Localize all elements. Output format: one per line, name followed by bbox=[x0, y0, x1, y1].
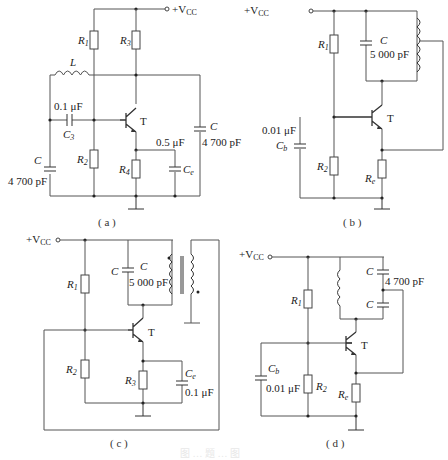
capacitor-c bbox=[360, 41, 372, 45]
label-l: L bbox=[69, 56, 76, 68]
junction-dot bbox=[173, 194, 176, 197]
value-c: 5 000 pF bbox=[370, 48, 409, 60]
polarity-dot bbox=[197, 291, 200, 294]
resistor-r2 bbox=[330, 157, 338, 175]
capacitor-ce bbox=[169, 167, 181, 171]
value-ce: 0.1 μF bbox=[185, 386, 214, 398]
resistor-r1 bbox=[90, 31, 98, 49]
resistor-re bbox=[352, 384, 360, 402]
panel-label-d: ( d ) bbox=[326, 437, 345, 450]
label-r3: R3 bbox=[124, 374, 136, 388]
label-cb: Cb bbox=[276, 139, 287, 153]
label-r2: R2 bbox=[315, 380, 327, 394]
junction-dot bbox=[48, 118, 51, 121]
label-r1: R1 bbox=[290, 294, 302, 308]
junction-dot bbox=[92, 194, 95, 197]
label-transistor: T bbox=[140, 115, 147, 127]
junction-dot bbox=[306, 414, 309, 417]
resistor-r2 bbox=[90, 150, 98, 168]
ground-icon bbox=[128, 196, 144, 209]
inductor bbox=[338, 270, 341, 306]
label-c-a: C bbox=[111, 265, 119, 277]
panel-label-b: ( b ) bbox=[343, 216, 362, 229]
label-r3: R3 bbox=[119, 34, 131, 48]
label-c-b: C bbox=[140, 260, 148, 272]
label-transistor: T bbox=[361, 339, 368, 351]
value-c-left: 4 700 pF bbox=[8, 175, 47, 187]
label-transistor: T bbox=[148, 326, 155, 338]
label-c3: C3 bbox=[63, 128, 74, 142]
label-c-right: C bbox=[210, 120, 218, 132]
supply-terminal-icon bbox=[309, 9, 313, 13]
junction-dot bbox=[381, 288, 384, 291]
transistor-npn bbox=[128, 318, 143, 342]
capacitor-c3 bbox=[67, 114, 72, 126]
supply-terminal-icon bbox=[268, 255, 272, 259]
label-r1: R1 bbox=[66, 278, 78, 292]
label-re: Re bbox=[337, 388, 349, 402]
transformer-core-icon bbox=[181, 256, 183, 294]
label-c-left: C bbox=[34, 154, 42, 166]
label-r2: R2 bbox=[316, 160, 328, 174]
junction-dot bbox=[354, 371, 357, 374]
resistor-r3 bbox=[132, 31, 140, 49]
wire bbox=[366, 11, 417, 81]
label-re: Re bbox=[364, 172, 376, 186]
resistor-r3 bbox=[139, 371, 147, 389]
wire bbox=[128, 240, 172, 305]
resistor-re bbox=[378, 160, 386, 178]
value-cb: 0.01 μF bbox=[262, 124, 296, 136]
transformer-secondary-icon bbox=[191, 254, 194, 294]
ground-icon bbox=[374, 198, 390, 209]
value-c: 4 700 pF bbox=[385, 275, 424, 287]
capacitor-c bbox=[122, 268, 134, 272]
inductor bbox=[417, 18, 420, 72]
resistor-r2 bbox=[304, 375, 312, 393]
label-r2: R2 bbox=[65, 363, 77, 377]
supply-label: +VCC bbox=[244, 4, 269, 18]
label-c-top: C bbox=[366, 265, 374, 277]
panel-label-a: ( a ) bbox=[98, 216, 116, 229]
resistor-r1 bbox=[330, 35, 338, 53]
circuit-panel-a: +VCC R1 R3 L C 4 700 pF 0.1 μF C3 R2 bbox=[8, 3, 241, 229]
capacitor-c-top bbox=[377, 270, 389, 274]
label-c-bottom: C bbox=[366, 298, 374, 310]
resistor-r1 bbox=[81, 275, 89, 293]
supply-terminal-icon bbox=[165, 7, 169, 11]
label-cb: Cb bbox=[268, 362, 279, 376]
capacitor-ce bbox=[176, 381, 188, 385]
circuit-panel-d: +VCC R1 R2 Cb 0.01 μF C 4 700 pF C T bbox=[239, 248, 424, 450]
resistor-r4 bbox=[132, 160, 140, 178]
value-c-right: 4 700 pF bbox=[202, 136, 241, 148]
wire bbox=[143, 342, 182, 403]
value-c: 5 000 pF bbox=[129, 276, 168, 288]
supply-label: +VCC bbox=[26, 233, 51, 247]
ground-icon bbox=[348, 416, 364, 430]
capacitor-c-left bbox=[44, 167, 56, 171]
junction-dot bbox=[141, 359, 144, 362]
supply-label: +VCC bbox=[239, 248, 264, 262]
feedback-wire bbox=[356, 290, 403, 373]
circuit-figure: +VCC R1 R3 L C 4 700 pF 0.1 μF C3 R2 bbox=[0, 0, 448, 460]
transistor-npn bbox=[334, 105, 382, 129]
resistor-r2 bbox=[81, 360, 89, 378]
label-c: C bbox=[380, 34, 388, 46]
panel-label-c: ( c ) bbox=[110, 437, 128, 450]
junction-dot bbox=[332, 196, 335, 199]
capacitor-cb bbox=[294, 144, 306, 148]
label-ce: Ce bbox=[183, 163, 194, 177]
supply-label: +VCC bbox=[172, 3, 197, 17]
ground-icon bbox=[135, 403, 151, 416]
label-r4: R4 bbox=[118, 163, 130, 177]
wire bbox=[340, 257, 383, 319]
capacitor-c-right bbox=[194, 127, 206, 131]
inductor-l bbox=[55, 71, 89, 75]
resistor-r1 bbox=[304, 290, 312, 308]
value-c3: 0.1 μF bbox=[54, 100, 83, 112]
label-r1: R1 bbox=[317, 38, 329, 52]
circuit-panel-b: +VCC R1 C 5 000 pF T 0.01 μF Cb R2 bbox=[244, 4, 443, 229]
figure-caption: 图 … 题 … 图 bbox=[180, 448, 240, 459]
transistor-npn bbox=[346, 332, 356, 355]
junction-dot bbox=[92, 118, 95, 121]
junction-dot bbox=[134, 73, 137, 76]
